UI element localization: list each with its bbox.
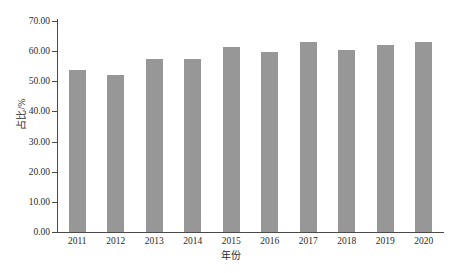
bar-2015 [223, 47, 240, 232]
y-axis-tick-label: 20.00 [2, 167, 50, 177]
x-axis-title: 年份 [0, 250, 461, 262]
bar-chart-figure: 占比/% 0.0010.0020.0030.0040.0050.0060.007… [0, 0, 461, 273]
y-axis-tick-label: 70.00 [2, 16, 50, 26]
bar-2011 [69, 70, 86, 232]
bar-2014 [184, 59, 201, 232]
y-axis-tick-label: 40.00 [2, 106, 50, 116]
y-axis-tick-label: 30.00 [2, 137, 50, 147]
x-axis-line [57, 232, 444, 233]
bar-2018 [338, 50, 355, 232]
bar-2020 [415, 42, 432, 232]
bar-2016 [261, 52, 278, 232]
bar-2019 [377, 45, 394, 232]
plot-area [58, 21, 443, 232]
x-axis-tick-label: 2020 [400, 236, 448, 247]
y-axis-tick-label: 0.00 [2, 227, 50, 237]
y-axis-tick-label: 10.00 [2, 197, 50, 207]
bar-2012 [107, 75, 124, 232]
y-axis-tick-label: 50.00 [2, 76, 50, 86]
bar-2013 [146, 59, 163, 232]
bar-2017 [300, 42, 317, 232]
y-axis-tick [52, 232, 58, 233]
y-axis-tick-label: 60.00 [2, 46, 50, 56]
